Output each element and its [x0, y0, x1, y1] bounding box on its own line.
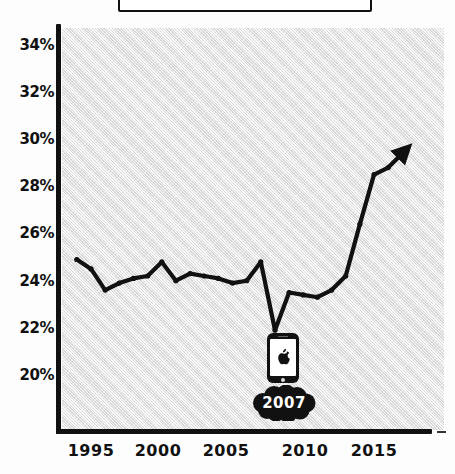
iphone-icon [267, 333, 299, 383]
apple-logo-icon [276, 349, 291, 366]
x-axis-tail [437, 431, 446, 433]
iphone-home-button-icon [281, 378, 285, 382]
chart-figure: 34% 32% 30% 28% 26% 24% 22% 20% 1995 200… [0, 0, 455, 474]
y-tick-label: 34% [2, 36, 54, 54]
y-tick-label: 32% [2, 83, 54, 101]
y-tick-label: 26% [2, 224, 54, 242]
y-tick-label: 24% [2, 272, 54, 290]
x-tick-label: 2015 [351, 441, 398, 460]
year-callout-label: 2007 [252, 385, 316, 421]
cropped-header-box [118, 0, 372, 12]
y-tick-label: 30% [2, 130, 54, 148]
x-tick-label: 1995 [68, 441, 115, 460]
x-tick-label: 2010 [282, 441, 329, 460]
iphone-speaker-icon [278, 336, 288, 338]
plot-area [62, 28, 444, 430]
y-tick-label: 22% [2, 319, 54, 337]
y-axis-line [56, 24, 61, 434]
year-callout-blob: 2007 [252, 385, 316, 421]
iphone-screen [270, 339, 296, 376]
x-tick-label: 2005 [203, 441, 250, 460]
y-tick-label: 20% [2, 366, 54, 384]
y-axis-tick-labels: 34% 32% 30% 28% 26% 24% 22% 20% [0, 0, 54, 474]
x-tick-label: 2000 [135, 441, 182, 460]
x-axis-line [56, 429, 432, 434]
y-tick-label: 28% [2, 177, 54, 195]
